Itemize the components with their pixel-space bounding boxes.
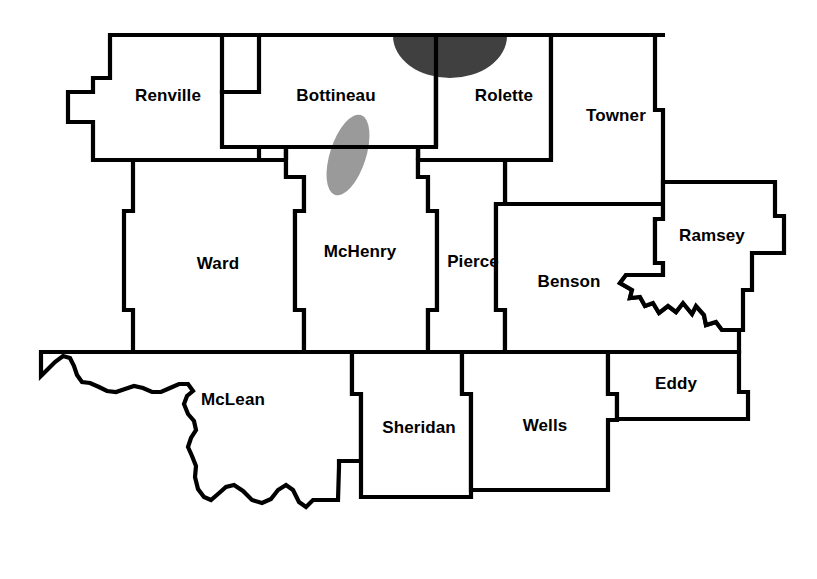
county-label-eddy: Eddy [655, 374, 697, 393]
county-outline-map: Renville Bottineau Rolette Towner Ward M… [0, 0, 817, 579]
county-shape-mclean[interactable] [41, 352, 361, 507]
county-label-pierce: Pierce [447, 252, 499, 271]
map-container: Renville Bottineau Rolette Towner Ward M… [0, 0, 817, 579]
county-label-rolette: Rolette [475, 86, 533, 105]
county-label-bottineau: Bottineau [296, 86, 375, 105]
county-label-mclean: McLean [201, 390, 265, 409]
county-label-renville: Renville [135, 86, 201, 105]
county-label-mchenry: McHenry [324, 242, 397, 261]
county-label-sheridan: Sheridan [382, 418, 456, 437]
county-label-ward: Ward [197, 254, 239, 273]
county-label-towner: Towner [586, 106, 646, 125]
county-label-ramsey: Ramsey [679, 226, 745, 245]
county-label-wells: Wells [523, 416, 568, 435]
county-label-benson: Benson [538, 272, 601, 291]
